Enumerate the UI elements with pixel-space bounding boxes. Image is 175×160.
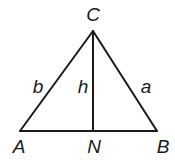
side-label-b: b: [33, 76, 44, 97]
triangle-diagram: C A N B b h a: [0, 0, 175, 160]
side-label-a: a: [141, 76, 152, 97]
altitude-label-h: h: [78, 76, 89, 97]
vertex-label-b: B: [157, 136, 170, 157]
foot-label-n: N: [87, 136, 101, 157]
vertex-label-c: C: [86, 4, 100, 25]
vertex-label-a: A: [12, 136, 26, 157]
